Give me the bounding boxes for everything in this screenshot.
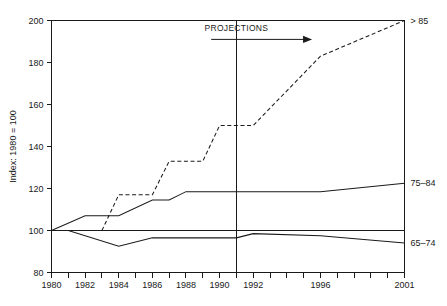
x-tick-label-1980: 1980 [41,280,61,290]
x-tick-label-1986: 1986 [142,280,162,290]
x-tick-label-1982: 1982 [75,280,95,290]
projections-annotation: PROJECTIONS [205,23,313,43]
y-tick-label-200: 200 [28,16,43,26]
chart-page: 80100120140160180200 1980198219841986198… [0,0,447,306]
y-tick-label-120: 120 [28,184,43,194]
x-tick-label-1996: 1996 [310,280,330,290]
x-tick-label-1988: 1988 [176,280,196,290]
x-axis: 198019821984198619881990199219962001 [41,273,414,290]
x-tick-label-1992: 1992 [243,280,263,290]
index-trend-line-chart: 80100120140160180200 1980198219841986198… [0,0,447,306]
series-line-75-84 [52,183,405,230]
y-axis-title: Index: 1980 = 100 [8,110,18,182]
annotation-arrow-head-icon [303,36,312,43]
x-tick-label-2001: 2001 [394,280,414,290]
y-tick-label-80: 80 [33,268,43,278]
series-line--85 [102,21,405,231]
series-label--85: > 85 [411,16,429,26]
y-tick-label-160: 160 [28,100,43,110]
annotation-label-projections: PROJECTIONS [205,23,269,33]
series-label-75-84: 75–84 [411,178,436,188]
series-label-65-74: 65–74 [411,238,436,248]
series-lines [52,21,405,247]
y-tick-label-100: 100 [28,226,43,236]
x-tick-label-1990: 1990 [210,280,230,290]
series-labels: > 8575–8465–74 [411,16,436,249]
y-tick-label-180: 180 [28,58,43,68]
series-line-65-74 [52,231,405,247]
x-tick-label-1984: 1984 [109,280,129,290]
y-tick-label-140: 140 [28,142,43,152]
y-axis: 80100120140160180200 [28,16,51,278]
